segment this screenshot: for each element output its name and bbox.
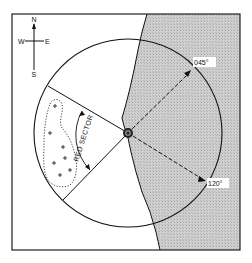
bearing-label-045: 045° xyxy=(194,59,209,66)
compass-icon xyxy=(25,23,44,70)
bearing-label-120: 120° xyxy=(208,180,223,187)
sector-boundary-lower xyxy=(63,133,128,200)
compass-east: E xyxy=(45,38,50,45)
compass-south: S xyxy=(32,71,37,78)
sector-diagram: RED SECTOR 045° 120° N S W E xyxy=(0,0,252,263)
compass-north: N xyxy=(32,16,37,23)
arrowhead-icon xyxy=(79,111,85,116)
hazard-symbols xyxy=(48,104,72,177)
light-icon xyxy=(123,128,133,138)
compass-west: W xyxy=(18,38,25,45)
